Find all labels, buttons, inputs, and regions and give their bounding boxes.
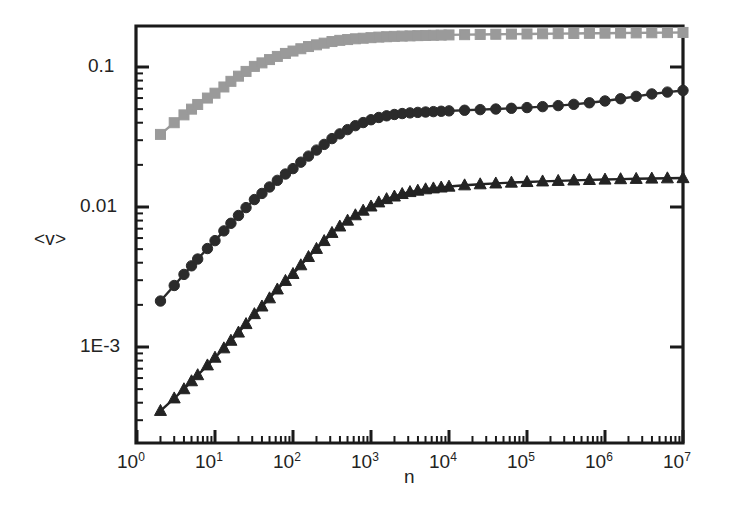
data-marker-circle [553,100,563,110]
y-tick-label-2: 1E-3 [80,335,120,357]
data-marker-circle [233,210,243,220]
x-tick-label-3: 103 [351,451,379,473]
x-tick-label-1: 101 [195,451,223,473]
data-marker-circle [522,102,532,112]
data-marker-circle [631,91,641,101]
y-tick-label-0: 0.1 [88,55,114,77]
data-marker-square [491,29,501,39]
x-tick-label-0: 100 [117,451,145,473]
data-marker-circle [459,105,469,115]
data-marker-circle [169,280,179,290]
data-marker-circle [584,98,594,108]
data-marker-circle [491,104,501,114]
data-marker-square [647,28,657,38]
data-marker-circle [569,99,579,109]
x-tick-label-4: 104 [429,451,457,473]
data-marker-square [678,27,688,37]
data-marker-square [584,28,594,38]
data-marker-square [155,129,165,139]
x-tick-label-7: 107 [663,451,691,473]
data-marker-circle [444,106,454,116]
data-marker-circle [600,96,610,106]
data-marker-square [475,29,485,39]
data-marker-circle [179,269,189,279]
data-marker-circle [506,103,516,113]
y-axis-title: <v> [34,228,66,250]
series-line-middle-series [160,90,683,301]
data-marker-circle [155,296,165,306]
data-marker-circle [226,218,236,228]
data-marker-square [569,28,579,38]
data-marker-square [506,29,516,39]
chart-plot-svg [0,0,731,520]
data-marker-circle [662,87,672,97]
data-marker-square [460,30,470,40]
series-line-upper-series [160,32,683,134]
x-tick-label-6: 106 [585,451,613,473]
data-marker-circle [202,243,212,253]
data-marker-circle [615,94,625,104]
data-marker-square [193,99,203,109]
data-marker-square [600,28,610,38]
x-tick-label-5: 105 [507,451,535,473]
data-marker-circle [537,101,547,111]
data-marker-circle [647,89,657,99]
data-marker-circle [475,104,485,114]
x-tick-label-2: 102 [273,451,301,473]
data-marker-square [444,30,454,40]
data-marker-square [631,28,641,38]
data-marker-square [662,28,672,38]
data-marker-circle [241,202,251,212]
data-marker-square [169,118,179,128]
y-tick-label-1: 0.01 [80,195,117,217]
data-marker-square [538,29,548,39]
chart-figure: <v> n 100101102103104105106107 0.10.011E… [0,0,731,520]
data-marker-square [616,28,626,38]
data-marker-circle [210,235,220,245]
x-axis-title: n [404,466,415,488]
data-marker-circle [192,254,202,264]
data-marker-square [522,29,532,39]
data-marker-square [553,29,563,39]
data-marker-circle [678,85,688,95]
